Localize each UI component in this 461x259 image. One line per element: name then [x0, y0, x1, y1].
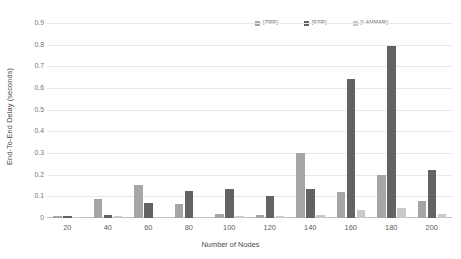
x-axis-tick-label: 160: [331, 224, 372, 236]
bar[interactable]: [266, 196, 275, 218]
bar[interactable]: [175, 204, 184, 218]
bar-group: [290, 23, 331, 218]
y-axis-title: End-To-End Delay (seconds): [3, 0, 17, 232]
y-axis-tick-label: 0.5: [18, 106, 44, 113]
bar[interactable]: [94, 199, 103, 219]
bar-group: [250, 23, 291, 218]
x-axis-tick-label: 80: [169, 224, 210, 236]
x-axis-tick-label: 180: [371, 224, 412, 236]
x-axis-tick-labels: 20406080100120140160180200: [47, 224, 452, 236]
bar[interactable]: [377, 175, 386, 218]
bar-chart: [ZRP][FSR][LANMAR] End-To-End Delay (sec…: [0, 0, 461, 259]
bar[interactable]: [235, 216, 244, 218]
y-axis-tick-label: 0.7: [18, 63, 44, 70]
bar-group: [47, 23, 88, 218]
plot-area: [47, 23, 452, 218]
bar-group: [331, 23, 372, 218]
y-axis-tick-label: 0.3: [18, 150, 44, 157]
bar-groups: [47, 23, 452, 218]
bar-group: [169, 23, 210, 218]
bar-group: [88, 23, 129, 218]
bar-group: [371, 23, 412, 218]
bar[interactable]: [134, 185, 143, 218]
bar[interactable]: [276, 216, 285, 218]
y-axis-tick-label: 0.2: [18, 171, 44, 178]
bar[interactable]: [397, 208, 406, 218]
bar[interactable]: [185, 191, 194, 218]
y-axis-tick-label: 0: [18, 215, 44, 222]
x-axis-tick-label: 140: [290, 224, 331, 236]
bar[interactable]: [387, 46, 396, 218]
bar[interactable]: [154, 217, 163, 218]
bar[interactable]: [215, 214, 224, 218]
y-axis-title-text: End-To-End Delay (seconds): [6, 67, 15, 164]
bar-group: [128, 23, 169, 218]
bar[interactable]: [428, 170, 437, 218]
bar[interactable]: [63, 216, 72, 218]
x-axis-tick-label: 20: [47, 224, 88, 236]
bar[interactable]: [73, 217, 82, 218]
bar[interactable]: [347, 79, 356, 218]
bar[interactable]: [195, 217, 204, 218]
y-axis-tick-label: 0.6: [18, 85, 44, 92]
x-axis-title: Number of Nodes: [0, 240, 461, 249]
bar[interactable]: [53, 216, 62, 218]
bar[interactable]: [357, 210, 366, 218]
x-axis-tick-label: 200: [412, 224, 453, 236]
y-axis-tick-label: 0.1: [18, 193, 44, 200]
bar[interactable]: [104, 215, 113, 218]
y-axis-tick-label: 0.4: [18, 128, 44, 135]
bar[interactable]: [438, 214, 447, 218]
bar-group: [209, 23, 250, 218]
y-axis-tick-label: 0.8: [18, 41, 44, 48]
bar[interactable]: [306, 189, 315, 218]
bar[interactable]: [296, 153, 305, 218]
bar[interactable]: [144, 203, 153, 218]
bar[interactable]: [225, 189, 234, 218]
x-axis-tick-label: 100: [209, 224, 250, 236]
bar[interactable]: [337, 192, 346, 218]
y-axis-tick-label: 0.9: [18, 20, 44, 27]
x-axis-tick-label: 120: [250, 224, 291, 236]
bar[interactable]: [114, 216, 123, 218]
bar[interactable]: [316, 215, 325, 218]
x-axis-tick-label: 40: [88, 224, 129, 236]
bar[interactable]: [256, 215, 265, 218]
bar-group: [412, 23, 453, 218]
y-axis-tick-labels: 00.10.20.30.40.50.60.70.80.9: [18, 0, 44, 259]
x-axis-tick-label: 60: [128, 224, 169, 236]
bar[interactable]: [418, 201, 427, 218]
